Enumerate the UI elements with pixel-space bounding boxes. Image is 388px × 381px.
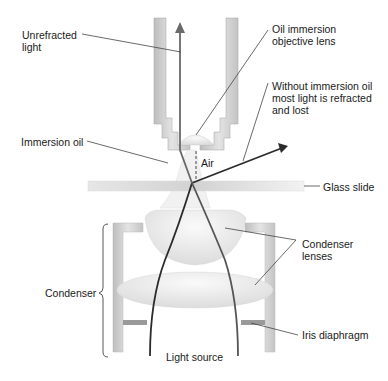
glass-slide (88, 181, 304, 191)
unrefracted-ray-arrowhead (175, 22, 185, 33)
condenser-lens-lower (117, 272, 273, 308)
label-line: most light is refracted (272, 92, 372, 104)
label-without-oil: Without immersion oil most light is refr… (272, 80, 372, 116)
label-unrefracted-light: Unrefracted light (22, 29, 77, 53)
label-condenser: Condenser (45, 287, 96, 299)
label-line: objective lens (272, 35, 336, 47)
label-line: lenses (302, 250, 353, 262)
label-immersion-oil: Immersion oil (21, 136, 83, 148)
label-line: and lost (272, 104, 372, 116)
condenser-brace (99, 224, 108, 357)
light-ray-left (150, 183, 192, 356)
objective-housing (154, 18, 238, 150)
label-line: light (22, 41, 77, 53)
refracted-ray-arrowhead (278, 143, 288, 153)
label-condenser-lenses: Condenser lenses (302, 238, 353, 262)
light-ray-right (192, 183, 238, 356)
label-glass-slide: Glass slide (323, 181, 374, 193)
label-line: Unrefracted (22, 29, 77, 41)
label-light-source: Light source (166, 351, 223, 363)
label-line: Without immersion oil (272, 80, 372, 92)
label-objective-lens: Oil immersion objective lens (272, 23, 336, 47)
label-line: Condenser (302, 238, 353, 250)
label-iris-diaphragm: Iris diaphragm (302, 329, 369, 341)
label-air: Air (201, 157, 214, 169)
condenser-lens-upper (145, 210, 246, 265)
label-line: Oil immersion (272, 23, 336, 35)
